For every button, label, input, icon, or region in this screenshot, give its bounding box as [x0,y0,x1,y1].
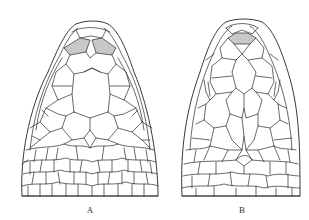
snake-head-illustration [0,0,309,220]
panel-b-head [182,19,300,196]
panel-label-a: A [80,205,100,215]
panel-label-b: B [232,205,252,215]
panel-a-head [22,21,158,196]
